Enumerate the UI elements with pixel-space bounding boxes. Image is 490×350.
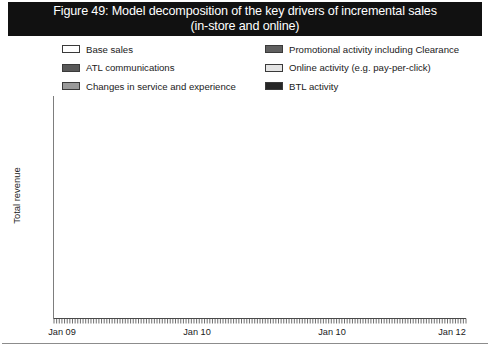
- x-tick-label-3: Jan 12: [430, 327, 474, 337]
- y-axis-title: Total revenue: [11, 156, 22, 236]
- bottom-divider: [2, 343, 488, 344]
- atl-communications-swatch: [62, 64, 80, 72]
- figure-title-bar: Figure 49: Model decomposition of the ke…: [8, 2, 482, 36]
- legend-label-changes-in-service: Changes in service and experience: [86, 81, 236, 92]
- x-axis-ticks: [54, 319, 466, 324]
- legend-item-changes-in-service[interactable]: Changes in service and experience: [62, 77, 272, 96]
- promotional-activity-swatch: [265, 45, 283, 53]
- changes-in-service-swatch: [62, 82, 80, 90]
- x-tick-label-2: Jan 10: [310, 327, 354, 337]
- legend-item-base-sales[interactable]: Base sales: [62, 40, 272, 59]
- legend-item-atl-communications[interactable]: ATL communications: [62, 59, 272, 78]
- legend-label-btl-activity: BTL activity: [289, 81, 338, 92]
- base-sales-swatch: [62, 45, 80, 53]
- legend-item-btl-activity[interactable]: BTL activity: [265, 77, 475, 96]
- legend-item-promotional-activity[interactable]: Promotional activity including Clearance: [265, 40, 475, 59]
- legend-label-promotional-activity: Promotional activity including Clearance: [289, 44, 459, 55]
- x-tick-label-1: Jan 10: [175, 327, 219, 337]
- legend-column-left: Base sales ATL communications Changes in…: [62, 40, 272, 96]
- legend-column-right: Promotional activity including Clearance…: [265, 40, 475, 96]
- figure-title-line-2: (in-store and online): [191, 19, 300, 34]
- online-activity-swatch: [265, 64, 283, 72]
- figure-title-line-1: Figure 49: Model decomposition of the ke…: [53, 4, 437, 19]
- btl-activity-swatch: [265, 82, 283, 90]
- legend-item-online-activity[interactable]: Online activity (e.g. pay-per-click): [265, 59, 475, 78]
- axis-lines: [54, 96, 467, 319]
- legend-label-atl-communications: ATL communications: [86, 62, 175, 73]
- legend-label-online-activity: Online activity (e.g. pay-per-click): [289, 62, 431, 73]
- figure-container: Figure 49: Model decomposition of the ke…: [0, 0, 490, 350]
- x-tick-label-0: Jan 09: [40, 327, 84, 337]
- chart-legend: Base sales ATL communications Changes in…: [52, 40, 486, 96]
- legend-label-base-sales: Base sales: [86, 44, 133, 55]
